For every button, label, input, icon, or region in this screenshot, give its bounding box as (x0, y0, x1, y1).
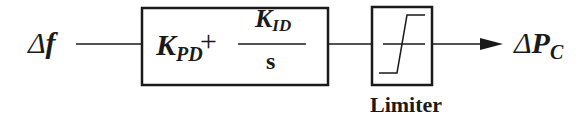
plus-operator: + (200, 24, 217, 58)
laplace-variable: s (266, 48, 275, 75)
block-diagram-canvas (0, 0, 586, 123)
arrowhead-icon (480, 38, 503, 50)
saturation-icon (379, 15, 425, 73)
input-label: Δf (28, 26, 56, 60)
integral-gain: KID (255, 4, 291, 36)
proportional-gain: KPD (156, 28, 203, 66)
limiter-label: Limiter (370, 92, 442, 118)
output-label: ΔPC (514, 26, 563, 64)
